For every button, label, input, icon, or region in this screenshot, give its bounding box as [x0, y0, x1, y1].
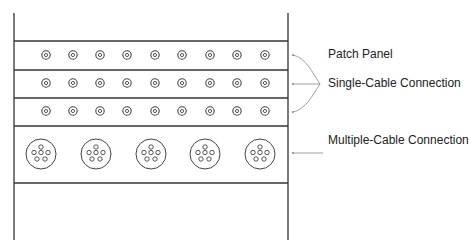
arrow-to-row-3: [293, 84, 320, 112]
single-cable-port-icon: [178, 51, 186, 59]
arrowhead-icon: [292, 152, 294, 154]
single-cable-port-icon: [96, 107, 104, 115]
single-cable-port-icon: [178, 107, 186, 115]
single-cable-port-icon: [123, 79, 131, 87]
single-cable-port-icon: [151, 51, 159, 59]
single-cable-port-icon: [206, 107, 214, 115]
arrow-to-row-1: [293, 55, 320, 84]
rack-frame: [14, 13, 288, 240]
multiple-cable-connectors: [26, 139, 275, 169]
single-cable-port-icon: [69, 107, 77, 115]
single-cable-port-icon: [233, 79, 241, 87]
single-cable-port-icon: [151, 79, 159, 87]
single-cable-port-icon: [233, 107, 241, 115]
label-single-cable-connection: Single-Cable Connection: [328, 76, 461, 90]
multiple-cable-port-icon: [245, 139, 275, 169]
label-multiple-cable-connection: Multiple-Cable Connection: [328, 133, 469, 147]
single-cable-port-icon: [96, 79, 104, 87]
single-cable-port-icon: [261, 107, 269, 115]
multiple-cable-port-icon: [190, 139, 220, 169]
multiple-cable-port-icon: [26, 139, 56, 169]
single-cable-port-icon: [151, 107, 159, 115]
single-cable-port-icon: [233, 51, 241, 59]
single-cable-port-icon: [96, 51, 104, 59]
single-cable-port-icon: [206, 79, 214, 87]
multiple-cable-port-icon: [136, 139, 166, 169]
single-cable-port-icon: [261, 51, 269, 59]
multiple-cable-port-icon: [81, 139, 111, 169]
single-cable-port-icon: [42, 51, 50, 59]
arrow-heads: [292, 54, 294, 154]
callout-arrows: [293, 55, 323, 153]
single-cable-connectors: [42, 51, 269, 115]
label-patch-panel: Patch Panel: [328, 47, 393, 61]
arrowhead-icon: [292, 111, 294, 113]
arrowhead-icon: [292, 54, 294, 56]
single-cable-port-icon: [261, 79, 269, 87]
arrowhead-icon: [292, 83, 294, 85]
single-cable-port-icon: [42, 107, 50, 115]
single-cable-port-icon: [42, 79, 50, 87]
single-cable-port-icon: [123, 51, 131, 59]
single-cable-port-icon: [69, 51, 77, 59]
single-cable-port-icon: [69, 79, 77, 87]
single-cable-port-icon: [206, 51, 214, 59]
single-cable-port-icon: [123, 107, 131, 115]
single-cable-port-icon: [178, 79, 186, 87]
